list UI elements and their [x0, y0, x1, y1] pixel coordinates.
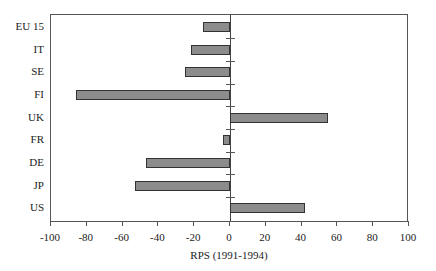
x-tick-label: -60 [114, 231, 129, 243]
bar-eu15 [203, 22, 230, 32]
x-tick [372, 221, 373, 226]
x-tick-label: 40 [295, 231, 306, 243]
x-tick [86, 221, 87, 226]
x-tick [265, 221, 266, 226]
x-tick [301, 221, 302, 226]
y-label-it: IT [34, 43, 44, 55]
x-tick [157, 221, 158, 226]
x-axis-title: RPS (1991-1994) [190, 249, 267, 261]
bar-jp [135, 181, 230, 191]
x-tick-label: 0 [226, 231, 232, 243]
y-tick [226, 84, 235, 85]
y-label-uk: UK [28, 111, 44, 123]
y-tick [226, 61, 235, 62]
bar-us [230, 203, 305, 213]
bar-it [191, 45, 230, 55]
bar-fi [76, 90, 230, 100]
y-label-se: SE [31, 65, 44, 77]
x-tick [50, 221, 51, 226]
bar-uk [230, 113, 328, 123]
y-label-fr: FR [31, 133, 44, 145]
x-tick-label: -20 [186, 231, 201, 243]
x-tick [122, 221, 123, 226]
y-tick [226, 129, 235, 130]
y-label-eu15: EU 15 [16, 20, 44, 32]
y-tick [226, 152, 235, 153]
plot-area [50, 14, 408, 222]
y-label-de: DE [29, 156, 44, 168]
bar-de [146, 158, 230, 168]
bar-se [185, 67, 230, 77]
x-tick-label: 60 [331, 231, 342, 243]
y-tick [226, 197, 235, 198]
y-label-us: US [30, 201, 44, 213]
x-tick-label: -100 [40, 231, 60, 243]
y-tick [226, 38, 235, 39]
x-tick-label: -80 [78, 231, 93, 243]
bar-fr [223, 135, 230, 145]
x-tick [408, 221, 409, 226]
x-tick [229, 221, 230, 226]
y-label-fi: FI [34, 88, 44, 100]
x-tick [193, 221, 194, 226]
x-tick-label: 100 [400, 231, 417, 243]
y-tick [226, 174, 235, 175]
x-tick-label: -40 [150, 231, 165, 243]
x-tick-label: 20 [259, 231, 270, 243]
x-tick [336, 221, 337, 226]
y-tick [226, 106, 235, 107]
y-label-jp: JP [34, 179, 44, 191]
x-tick-label: 80 [367, 231, 378, 243]
